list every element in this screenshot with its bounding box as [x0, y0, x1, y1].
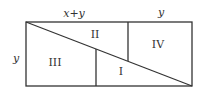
region-label-i: I — [119, 65, 123, 78]
label-left-side: y — [12, 52, 20, 65]
region-label-iii: III — [48, 56, 61, 69]
diagonal-line — [26, 22, 192, 86]
label-top-left: x+y — [63, 7, 85, 20]
rectangle-diagram: x+y y y II IV III I — [0, 0, 206, 102]
label-top-right: y — [157, 6, 165, 19]
region-label-ii: II — [91, 28, 100, 41]
region-label-iv: IV — [152, 38, 165, 51]
